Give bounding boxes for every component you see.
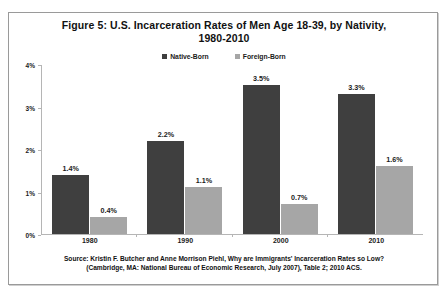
bar-wrap: 3.5% xyxy=(243,85,280,234)
bar-1980-foreign-born[interactable]: 0.4% xyxy=(90,217,127,234)
bar-2000-foreign-born[interactable]: 0.7% xyxy=(281,204,318,234)
y-tick-mark xyxy=(38,150,41,151)
source-note-line-2: (Cambridge, MA: National Bureau of Econo… xyxy=(19,263,429,272)
source-note-line-1: Source: Kristin F. Butcher and Anne Morr… xyxy=(19,254,429,263)
bar-wrap: 1.1% xyxy=(185,187,222,234)
bar-value-label: 0.7% xyxy=(291,193,307,202)
x-axis-labels: 1980199020002010 xyxy=(42,237,424,244)
chart-legend: Native-Born Foreign-Born xyxy=(9,53,439,60)
bar-value-label: 3.5% xyxy=(253,74,269,83)
legend-swatch-foreign-born xyxy=(235,54,240,59)
bar-wrap: 2.2% xyxy=(147,141,184,235)
y-tick-label: 3% xyxy=(11,104,35,111)
bar-1990-foreign-born[interactable]: 1.1% xyxy=(185,187,222,234)
legend-item-foreign-born: Foreign-Born xyxy=(235,53,286,60)
chart-title-line-1: Figure 5: U.S. Incarceration Rates of Me… xyxy=(9,19,439,32)
bar-group: 3.3%1.6% xyxy=(328,65,423,234)
y-tick-mark xyxy=(38,235,41,236)
bar-wrap: 3.3% xyxy=(338,94,375,234)
legend-label-foreign-born: Foreign-Born xyxy=(243,53,286,60)
y-tick-label: 1% xyxy=(11,189,35,196)
y-tick-mark xyxy=(38,65,41,66)
bar-wrap: 1.4% xyxy=(52,175,89,235)
x-axis-label-1990: 1990 xyxy=(138,237,234,244)
bar-2010-native-born[interactable]: 3.3% xyxy=(338,94,375,234)
legend-item-native-born: Native-Born xyxy=(162,53,209,60)
bar-group: 2.2%1.1% xyxy=(137,65,232,234)
y-tick-label: 0% xyxy=(11,232,35,239)
legend-swatch-native-born xyxy=(162,54,167,59)
bar-value-label: 1.4% xyxy=(62,164,78,173)
bar-2010-foreign-born[interactable]: 1.6% xyxy=(376,166,413,234)
legend-label-native-born: Native-Born xyxy=(170,53,209,60)
chart-title-line-2: 1980-2010 xyxy=(9,32,439,45)
bar-groups: 1.4%0.4%2.2%1.1%3.5%0.7%3.3%1.6% xyxy=(42,65,423,234)
bar-value-label: 0.4% xyxy=(100,206,116,215)
bar-wrap: 0.7% xyxy=(281,204,318,234)
bar-group: 3.5%0.7% xyxy=(233,65,328,234)
bar-value-label: 1.1% xyxy=(196,176,212,185)
bar-value-label: 1.6% xyxy=(386,155,402,164)
bar-2000-native-born[interactable]: 3.5% xyxy=(243,85,280,234)
source-note: Source: Kristin F. Butcher and Anne Morr… xyxy=(19,254,429,272)
y-tick-label: 4% xyxy=(11,62,35,69)
y-tick-label: 2% xyxy=(11,147,35,154)
x-axis-label-1980: 1980 xyxy=(42,237,138,244)
plot-area: 0%1%2%3%4% 1.4%0.4%2.2%1.1%3.5%0.7%3.3%1… xyxy=(41,65,423,235)
bar-value-label: 3.3% xyxy=(348,83,364,92)
bar-1990-native-born[interactable]: 2.2% xyxy=(147,141,184,235)
bar-1980-native-born[interactable]: 1.4% xyxy=(52,175,89,235)
figure-frame: Figure 5: U.S. Incarceration Rates of Me… xyxy=(8,12,438,285)
bar-value-label: 2.2% xyxy=(158,130,174,139)
x-axis-label-2000: 2000 xyxy=(233,237,329,244)
x-axis-label-2010: 2010 xyxy=(329,237,425,244)
bar-wrap: 0.4% xyxy=(90,217,127,234)
chart-title: Figure 5: U.S. Incarceration Rates of Me… xyxy=(9,19,439,45)
bar-wrap: 1.6% xyxy=(376,166,413,234)
y-tick-mark xyxy=(38,108,41,109)
y-tick-mark xyxy=(38,193,41,194)
bar-group: 1.4%0.4% xyxy=(42,65,137,234)
